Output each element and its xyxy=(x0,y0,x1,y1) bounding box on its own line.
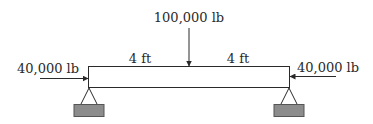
support-block xyxy=(74,105,104,117)
support-block xyxy=(274,105,304,117)
beam-diagram: 100,000 lb 4 ft 4 ft 40,000 lb 40,000 lb xyxy=(0,0,373,124)
span-label-right: 4 ft xyxy=(227,51,250,66)
span-label-left: 4 ft xyxy=(129,51,152,66)
beam xyxy=(89,67,290,88)
top-load-label: 100,000 lb xyxy=(154,10,224,25)
support-triangle-icon xyxy=(281,88,297,104)
support-triangle-icon xyxy=(81,88,97,104)
right-pin-support xyxy=(274,88,304,117)
right-axial-load-label: 40,000 lb xyxy=(297,60,359,75)
left-pin-support xyxy=(74,88,104,117)
left-axial-load-label: 40,000 lb xyxy=(17,61,79,76)
